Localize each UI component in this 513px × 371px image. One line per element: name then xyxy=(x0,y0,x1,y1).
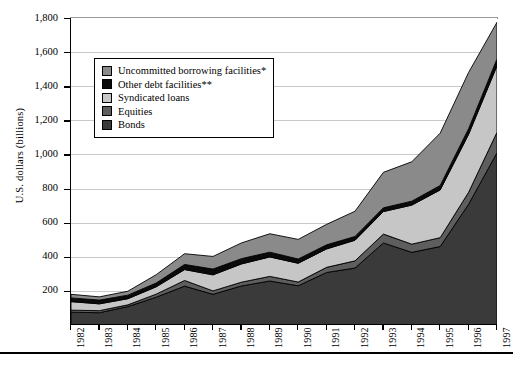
x-axis-tick-label: 1982 xyxy=(75,327,86,348)
y-axis-tick-label: 1,800 xyxy=(14,13,58,23)
x-axis-tick-label: 1986 xyxy=(188,327,199,348)
x-axis-tick xyxy=(70,325,71,330)
x-axis-tick xyxy=(468,325,469,330)
x-axis-tick xyxy=(212,325,213,330)
legend-label: Equities xyxy=(118,106,152,117)
x-axis-tick xyxy=(326,325,327,330)
legend-item-bonds: Bonds xyxy=(102,118,267,132)
legend-item-equities: Equities xyxy=(102,105,267,119)
x-axis-tick xyxy=(240,325,241,330)
x-axis-tick xyxy=(354,325,355,330)
figure-bottom-rule xyxy=(0,352,513,354)
x-axis-tick-label: 1996 xyxy=(472,327,483,348)
y-axis-tick-label: 1,600 xyxy=(14,47,58,57)
y-axis-tick xyxy=(64,52,71,53)
y-axis-tick-label: 1,000 xyxy=(14,149,58,159)
x-axis-tick-label: 1989 xyxy=(273,327,284,348)
x-axis-tick-label: 1984 xyxy=(131,327,142,348)
x-axis-tick-label: 1992 xyxy=(359,327,370,348)
chart-legend: Uncommitted borrowing facilities* Other … xyxy=(94,58,274,138)
legend-swatch-equities xyxy=(102,106,112,116)
y-axis-tick-label: 1,200 xyxy=(14,115,58,125)
y-axis-tick-label: 200 xyxy=(14,285,58,295)
x-axis-tick xyxy=(411,325,412,330)
x-axis-tick xyxy=(184,325,185,330)
y-axis-tick xyxy=(64,257,71,258)
x-axis-tick xyxy=(127,325,128,330)
chart-container: U.S. dollars (billions) 2004006008001,00… xyxy=(0,0,513,371)
x-axis-tick xyxy=(297,325,298,330)
legend-swatch-other-debt-facilities xyxy=(102,79,112,89)
x-axis-tick xyxy=(155,325,156,330)
y-axis-tick-label: 1,400 xyxy=(14,81,58,91)
y-axis-tick xyxy=(64,154,71,155)
x-axis-tick-label: 1991 xyxy=(330,327,341,348)
x-axis-tick xyxy=(269,325,270,330)
legend-item-uncommitted-borrowing-facilities: Uncommitted borrowing facilities* xyxy=(102,64,267,78)
x-axis-tick xyxy=(382,325,383,330)
y-axis-tick xyxy=(64,291,71,292)
legend-swatch-uncommitted-borrowing-facilities xyxy=(102,66,112,76)
x-axis-tick-label: 1987 xyxy=(217,327,228,348)
x-axis-tick-label: 1985 xyxy=(160,327,171,348)
x-axis-tick-label: 1995 xyxy=(444,327,455,348)
y-axis-tick-label: 600 xyxy=(14,217,58,227)
legend-label: Other debt facilities** xyxy=(118,79,212,90)
legend-item-syndicated-loans: Syndicated loans xyxy=(102,91,267,105)
x-axis-tick-label: 1993 xyxy=(387,327,398,348)
legend-label: Syndicated loans xyxy=(118,92,189,103)
x-axis-tick-label: 1997 xyxy=(501,327,512,348)
y-axis-tick xyxy=(64,86,71,87)
x-axis-tick xyxy=(496,325,497,330)
legend-label: Bonds xyxy=(118,119,145,130)
y-axis-tick xyxy=(64,120,71,121)
y-axis-tick-label: 400 xyxy=(14,251,58,261)
legend-swatch-bonds xyxy=(102,120,112,130)
legend-label: Uncommitted borrowing facilities* xyxy=(118,65,266,76)
x-axis-tick-label: 1994 xyxy=(415,327,426,348)
x-axis-tick xyxy=(98,325,99,330)
x-axis-tick xyxy=(439,325,440,330)
y-axis-tick xyxy=(64,189,71,190)
x-axis-tick-label: 1990 xyxy=(302,327,313,348)
y-axis-tick-label: 800 xyxy=(14,183,58,193)
x-axis-tick-label: 1983 xyxy=(103,327,114,348)
x-axis-tick-label: 1988 xyxy=(245,327,256,348)
y-axis-tick xyxy=(64,223,71,224)
y-axis-tick xyxy=(64,18,71,19)
legend-item-other-debt-facilities: Other debt facilities** xyxy=(102,78,267,92)
legend-swatch-syndicated-loans xyxy=(102,93,112,103)
